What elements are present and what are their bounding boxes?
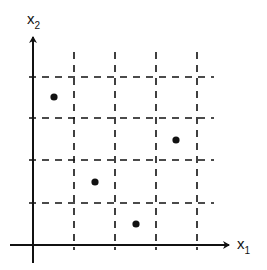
- data-point-1: [50, 93, 57, 100]
- x-axis-label: x1: [237, 235, 251, 256]
- data-point-3: [132, 220, 139, 227]
- scatter-grid-diagram: x1 x2: [0, 0, 267, 270]
- data-point-2: [91, 178, 98, 185]
- y-axis-label: x2: [27, 10, 41, 31]
- vertical-grid-lines: [74, 52, 197, 250]
- data-point-4: [172, 136, 179, 143]
